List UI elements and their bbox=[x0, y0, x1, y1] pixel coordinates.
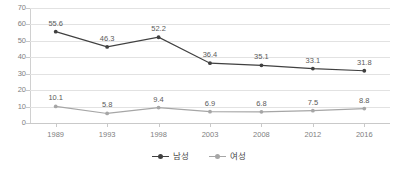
x-axis-tick-label: 2008 bbox=[253, 131, 270, 139]
x-axis-tick-mark bbox=[159, 123, 160, 127]
data-point-label: 10.1 bbox=[48, 94, 63, 102]
x-axis-tick-label: 1993 bbox=[99, 131, 116, 139]
data-point-label: 6.9 bbox=[205, 100, 215, 108]
y-axis-tick-label: 10 bbox=[2, 103, 26, 111]
grid-line bbox=[30, 24, 390, 25]
y-axis-tick-label: 30 bbox=[2, 70, 26, 78]
legend-marker-icon bbox=[209, 152, 226, 160]
data-point-label: 8.8 bbox=[359, 97, 369, 105]
y-axis-tick-label: 60 bbox=[2, 20, 26, 28]
x-axis-tick-mark bbox=[56, 123, 57, 127]
data-point-label: 33.1 bbox=[306, 57, 321, 65]
legend-item[interactable]: 남성 bbox=[152, 152, 189, 161]
y-axis-tick-label: 0 bbox=[2, 119, 26, 127]
data-point-label: 7.5 bbox=[308, 99, 318, 107]
grid-line bbox=[30, 8, 390, 9]
grid-line bbox=[30, 74, 390, 75]
x-axis-tick-label: 1998 bbox=[150, 131, 167, 139]
y-axis-tick-labels: 010203040506070 bbox=[0, 0, 26, 175]
x-axis-tick-mark bbox=[364, 123, 365, 127]
x-axis-tick-label: 2016 bbox=[356, 131, 373, 139]
x-axis-tick-label: 2012 bbox=[305, 131, 322, 139]
data-point-label: 35.1 bbox=[254, 53, 269, 61]
x-axis-tick-label: 2003 bbox=[202, 131, 219, 139]
y-axis-tick-label: 20 bbox=[2, 86, 26, 94]
legend-label: 여성 bbox=[230, 152, 246, 161]
legend-label: 남성 bbox=[173, 152, 189, 161]
grid-line bbox=[30, 90, 390, 91]
data-point-label: 36.4 bbox=[203, 51, 218, 59]
x-axis-tick-mark bbox=[261, 123, 262, 127]
y-axis-tick-label: 40 bbox=[2, 53, 26, 61]
y-axis-tick-label: 50 bbox=[2, 37, 26, 45]
chart-legend: 남성여성 bbox=[0, 152, 398, 161]
data-point-label: 31.8 bbox=[357, 59, 372, 67]
grid-line bbox=[30, 41, 390, 42]
data-point-label: 52.2 bbox=[151, 25, 166, 33]
x-axis-tick-labels: 1989199319982003200820122016 bbox=[30, 127, 390, 141]
legend-marker-icon bbox=[152, 152, 169, 160]
x-axis-tick-mark bbox=[313, 123, 314, 127]
x-axis-tick-mark bbox=[210, 123, 211, 127]
x-axis-tick-label: 1989 bbox=[47, 131, 64, 139]
data-point-label: 5.8 bbox=[102, 101, 112, 109]
data-point-label: 55.6 bbox=[48, 20, 63, 28]
x-axis-tick-mark bbox=[107, 123, 108, 127]
data-point-label: 9.4 bbox=[153, 96, 163, 104]
legend-item[interactable]: 여성 bbox=[209, 152, 246, 161]
line-chart: 010203040506070 198919931998200320082012… bbox=[0, 0, 398, 175]
data-point-label: 6.8 bbox=[256, 100, 266, 108]
y-axis-tick-label: 70 bbox=[2, 4, 26, 12]
data-point-label: 46.3 bbox=[100, 35, 115, 43]
